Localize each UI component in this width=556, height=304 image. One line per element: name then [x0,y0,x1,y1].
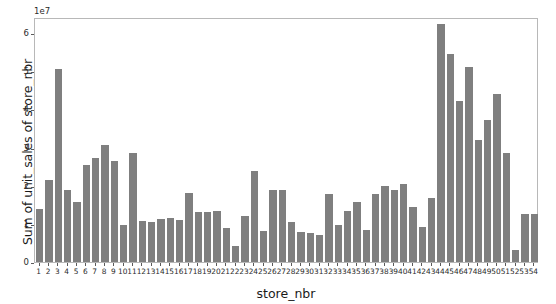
x-tick-label: 27 [277,267,286,276]
x-tick-mark [272,263,273,266]
bar [297,232,304,262]
y-axis-tick: 1 [0,225,34,226]
bar [363,230,370,262]
x-tick-mark [141,263,142,266]
x-tick-mark [197,263,198,266]
x-tick-label: 47 [463,267,472,276]
x-tick-mark [459,263,460,266]
x-tick-label: 41 [407,267,416,276]
bar [241,216,248,262]
bar [456,101,463,262]
y-axis-tick: 5 [0,72,34,73]
x-tick-label: 36 [361,267,370,276]
x-tick-label: 32 [323,267,332,276]
bar [101,145,108,262]
y-tick-mark [31,187,34,188]
x-tick-mark [113,263,114,266]
x-tick-label: 39 [389,267,398,276]
bar [251,171,258,262]
bar [204,212,211,262]
y-tick-mark [31,72,34,73]
x-tick-label: 46 [454,267,463,276]
x-tick-label: 29 [295,267,304,276]
x-tick-label: 37 [370,267,379,276]
x-tick-mark [403,263,404,266]
y-tick-label: 2 [24,181,29,192]
x-tick-label: 1 [36,267,41,276]
x-tick-label: 4 [64,267,69,276]
x-tick-label: 18 [193,267,202,276]
x-tick-label: 26 [267,267,276,276]
x-tick-label: 40 [398,267,407,276]
bar [372,194,379,262]
x-tick-label: 5 [74,267,79,276]
x-tick-mark [104,263,105,266]
bar [185,193,192,262]
bar [288,222,295,262]
bar [344,211,351,262]
x-tick-label: 30 [305,267,314,276]
x-axis-title: store_nbr [34,286,538,301]
bar [148,222,155,262]
y-axis-offset-text: 1e7 [34,6,50,16]
bar [447,54,454,262]
x-tick-mark [253,263,254,266]
x-tick-label: 43 [426,267,435,276]
x-tick-mark [449,263,450,266]
x-tick-label: 31 [314,267,323,276]
x-tick-mark [356,263,357,266]
y-tick-label: 4 [24,104,29,115]
y-tick-mark [31,149,34,150]
x-tick-label: 10 [118,267,127,276]
x-tick-label: 33 [333,267,342,276]
bar [83,165,90,262]
x-tick-label: 45 [445,267,454,276]
bar [437,24,444,263]
bar [409,207,416,262]
x-tick-mark [496,263,497,266]
x-tick-mark [281,263,282,266]
bar [391,190,398,262]
bar [484,120,491,262]
x-tick-mark [76,263,77,266]
x-tick-mark [216,263,217,266]
bar [92,158,99,262]
x-tick-label: 11 [127,267,136,276]
x-tick-label: 16 [174,267,183,276]
y-tick-label: 1 [24,219,29,230]
bar [232,246,239,262]
x-tick-mark [244,263,245,266]
bar [521,214,528,262]
y-tick-mark [31,263,34,264]
x-tick-label: 42 [417,267,426,276]
x-tick-mark [95,263,96,266]
x-tick-label: 8 [102,267,107,276]
bar [157,219,164,262]
bar [139,221,146,262]
x-tick-mark [393,263,394,266]
y-tick-mark [31,225,34,226]
x-tick-mark [440,263,441,266]
bar [120,225,127,262]
bar [73,202,80,262]
bar [428,198,435,262]
x-tick-mark [160,263,161,266]
bar [213,211,220,262]
bar [381,186,388,262]
x-tick-mark [477,263,478,266]
x-tick-mark [328,263,329,266]
bar [36,209,43,262]
x-tick-label: 50 [491,267,500,276]
x-tick-label: 14 [155,267,164,276]
bar [419,227,426,262]
bar [400,184,407,262]
bar [512,250,519,262]
x-tick-mark [375,263,376,266]
x-tick-mark [263,263,264,266]
y-axis-tick: 4 [0,110,34,111]
x-tick-label: 54 [529,267,538,276]
bar [493,94,500,262]
x-tick-label: 25 [258,267,267,276]
x-tick-label: 53 [519,267,528,276]
x-tick-mark [57,263,58,266]
